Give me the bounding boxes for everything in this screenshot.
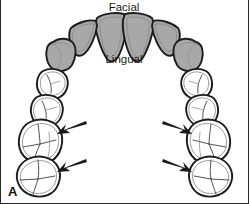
tooth-left-second-molar[interactable] [189, 157, 232, 197]
dental-arch-illustration: Facial Lingual A [0, 0, 249, 204]
tooth-left-canine[interactable] [173, 39, 202, 71]
label-facial: Facial [109, 1, 140, 13]
label-lingual: Lingual [105, 53, 142, 65]
tooth-right-canine[interactable] [46, 39, 75, 71]
tooth-right-second-molar[interactable] [17, 157, 60, 197]
dental-arch-figure: Facial Lingual A [0, 0, 249, 204]
panel-letter-label: A [8, 184, 18, 199]
